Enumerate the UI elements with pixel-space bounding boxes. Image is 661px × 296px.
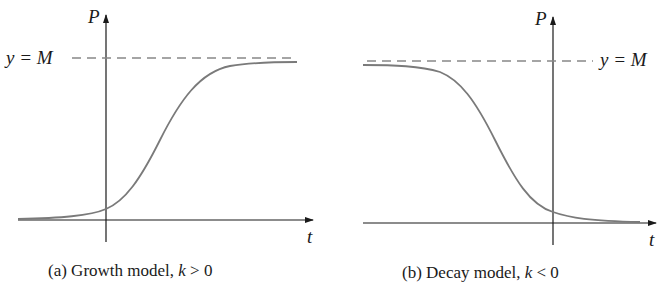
panel-b-y-label: P [535,8,547,30]
panel-a-caption: (a) Growth model, k > 0 [48,261,212,281]
panel-b-x-label: t [649,229,654,251]
panel-b-asymptote-label: y = M [600,49,647,71]
panel-a-chart [18,15,313,242]
caption-text: (a) Growth model, [48,261,174,280]
panel-a-y-label: P [88,6,100,28]
figure-canvas [0,0,661,296]
panel-b-decay-curve [363,65,640,222]
panel-a-x-label: t [307,226,312,248]
caption-text: (b) Decay model, [402,263,520,282]
caption-rel: > 0 [186,261,213,280]
panel-b-caption: (b) Decay model, k < 0 [402,263,559,283]
caption-rel: < 0 [532,263,559,282]
panel-a-asymptote-label: y = M [6,47,53,69]
caption-k: k [178,261,186,280]
panel-a-growth-curve [18,62,297,219]
